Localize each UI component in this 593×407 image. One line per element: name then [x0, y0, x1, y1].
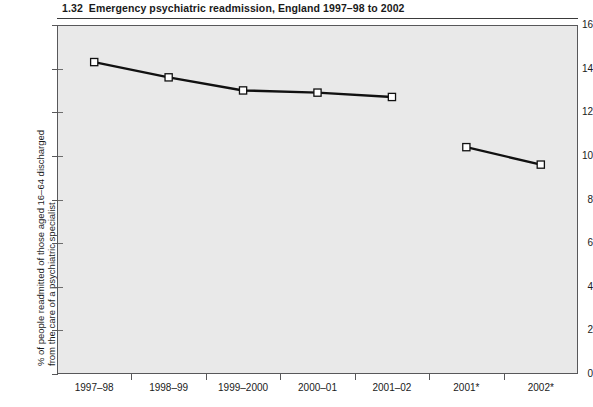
y-axis-tick [52, 25, 58, 26]
y-axis-tick-label: 2 [547, 324, 593, 335]
x-axis-tick [131, 374, 132, 380]
y-axis-title-line-1: % of people readmitted of those aged 16–… [36, 130, 46, 366]
y-axis-tick-inner [58, 69, 63, 70]
x-axis-tick [429, 374, 430, 380]
y-axis-tick-label: 4 [547, 281, 593, 292]
x-axis-tick-label: 2001–02 [372, 382, 411, 393]
y-axis-tick-label: 10 [547, 150, 593, 161]
y-axis-tick-inner [58, 243, 63, 244]
plot-inner [58, 26, 577, 373]
x-axis-tick-label: 2001* [453, 382, 479, 393]
y-axis-tick-label: 6 [547, 237, 593, 248]
y-axis-tick-inner [58, 330, 63, 331]
x-axis-tick [504, 374, 505, 380]
figure-title-text: Emergency psychiatric readmission, Engla… [89, 2, 405, 14]
y-axis-tick-inner [58, 112, 63, 113]
y-axis-title-line-2: from the care of a psychiatric specialis… [47, 202, 57, 366]
x-axis-tick [206, 374, 207, 380]
x-axis-tick-label: 1999–2000 [218, 382, 268, 393]
figure-number: 1.32 [62, 2, 83, 14]
x-axis-tick [280, 374, 281, 380]
x-axis-tick-label: 1998–99 [149, 382, 188, 393]
x-axis-tick-label: 1997–98 [75, 382, 114, 393]
y-axis-tick-label: 12 [547, 106, 593, 117]
page-title: 1.32Emergency psychiatric readmission, E… [62, 2, 405, 14]
x-axis-tick [355, 374, 356, 380]
y-axis-tick-label: 8 [547, 194, 593, 205]
y-axis-tick-label: 16 [547, 19, 593, 30]
y-axis-tick [52, 374, 58, 375]
y-axis-tick-label: 0 [547, 368, 593, 379]
plot-area [57, 25, 578, 374]
y-axis-tick-label: 14 [547, 63, 593, 74]
y-axis-title: % of people readmitted of those aged 16–… [0, 0, 52, 374]
x-axis-tick-label: 2002* [528, 382, 554, 393]
y-axis-tick-inner [58, 156, 63, 157]
y-axis-tick-inner [58, 287, 63, 288]
x-axis-tick-label: 2000–01 [298, 382, 337, 393]
title-divider [57, 18, 578, 19]
y-axis-tick-inner [58, 200, 63, 201]
